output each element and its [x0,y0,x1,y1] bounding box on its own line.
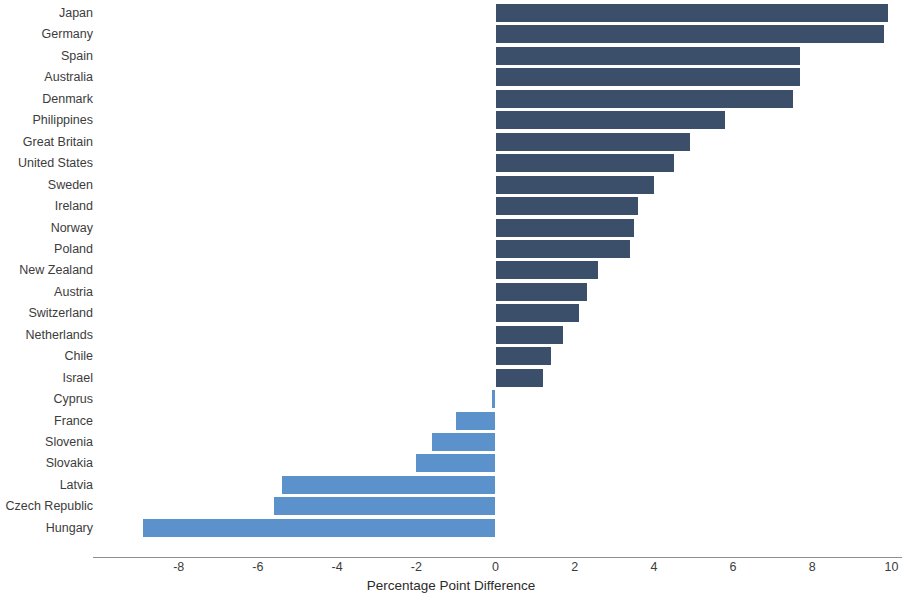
bar [143,519,495,537]
bar [496,283,587,301]
bar-row: New Zealand [0,261,902,279]
category-label: Switzerland [28,307,93,320]
category-label: Ireland [55,200,93,213]
bar [496,111,726,129]
bar [496,240,631,258]
category-label: Sweden [48,179,93,192]
bar-row: Hungary [0,519,902,537]
bar [496,197,639,215]
category-label: Chile [65,350,94,363]
category-label: United States [18,157,93,170]
category-label: Spain [61,50,93,63]
x-tick-label: 2 [571,560,578,574]
bar [496,25,884,43]
category-label: Great Britain [23,136,93,149]
x-tick-label: -4 [332,560,343,574]
bar-row: Germany [0,25,902,43]
category-label: Czech Republic [5,500,93,513]
x-tick-label: 8 [809,560,816,574]
bar [496,219,635,237]
bar [496,90,793,108]
bar-row: Sweden [0,176,902,194]
bar [496,4,888,22]
x-tick-label: -8 [173,560,184,574]
bar [496,176,654,194]
x-tick-label: 6 [730,560,737,574]
bar-row: Spain [0,47,902,65]
bar-row: Israel [0,369,902,387]
x-axis-title: Percentage Point Difference [0,578,902,593]
bar [496,68,801,86]
category-label: Poland [54,243,93,256]
bar-row: Chile [0,347,902,365]
bar-row: Switzerland [0,304,902,322]
bar [496,326,563,344]
bar-row: Ireland [0,197,902,215]
category-label: Denmark [42,93,93,106]
bar [496,347,551,365]
bar [496,261,599,279]
x-tick-label: 0 [492,560,499,574]
bar-row: Netherlands [0,326,902,344]
bar [496,47,801,65]
bar-row: France [0,412,902,430]
bar-chart: JapanGermanySpainAustraliaDenmarkPhilipp… [0,0,902,599]
category-label: Israel [62,372,93,385]
bar-row: Japan [0,4,902,22]
bar [432,433,495,451]
bar-row: Poland [0,240,902,258]
bar-row: Denmark [0,90,902,108]
category-label: Philippines [33,114,93,127]
bar-row: Philippines [0,111,902,129]
bar-row: United States [0,154,902,172]
category-label: Austria [54,286,93,299]
bar [496,304,579,322]
bar [416,454,495,472]
bar [492,390,496,408]
x-tick-label: 10 [885,560,899,574]
bar [496,154,674,172]
bar [496,369,544,387]
category-label: Australia [44,71,93,84]
bar [282,476,496,494]
bar-row: Czech Republic [0,497,902,515]
bar-row: Great Britain [0,133,902,151]
category-label: Germany [42,28,93,41]
x-tick-label: -2 [411,560,422,574]
bar-row: Slovenia [0,433,902,451]
x-tick-label: 4 [650,560,657,574]
bar-row: Norway [0,219,902,237]
bar [456,412,496,430]
category-label: Hungary [46,522,93,535]
category-label: Japan [59,7,93,20]
category-label: Netherlands [26,329,93,342]
bar [274,497,496,515]
category-label: Norway [51,222,93,235]
category-label: New Zealand [19,264,93,277]
bar-row: Austria [0,283,902,301]
category-label: France [54,415,93,428]
x-tick-label: -6 [252,560,263,574]
category-label: Slovakia [46,457,93,470]
category-label: Slovenia [45,436,93,449]
plot-area: JapanGermanySpainAustraliaDenmarkPhilipp… [0,0,902,558]
bar-row: Australia [0,68,902,86]
category-label: Cyprus [53,393,93,406]
category-label: Latvia [60,479,93,492]
bar-row: Latvia [0,476,902,494]
bar-row: Slovakia [0,454,902,472]
bar-row: Cyprus [0,390,902,408]
x-axis-line [93,557,902,558]
bar [496,133,690,151]
